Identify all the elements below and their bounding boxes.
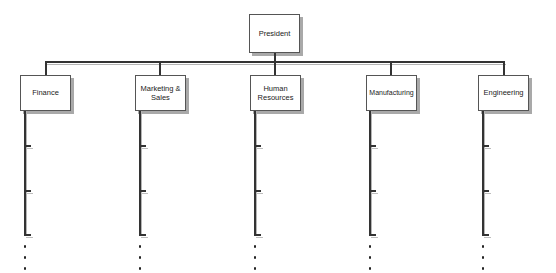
continuation-dot: [254, 245, 257, 248]
department-label: Marketing & Sales: [139, 84, 182, 103]
subordinate-tick: [24, 190, 31, 192]
subordinate-tick: [369, 145, 376, 147]
finance-connector: [45, 61, 47, 75]
org-chart: President Finance Marketing & Sales Huma…: [0, 0, 556, 273]
subordinate-line: [139, 111, 141, 235]
department-box-manufacturing: Manufacturing: [366, 75, 417, 111]
subordinate-line: [254, 111, 256, 235]
continuation-dot: [369, 267, 372, 270]
subordinate-line: [482, 111, 484, 235]
manufacturing-connector: [390, 61, 392, 75]
subordinate-tick-shadow: [256, 193, 263, 194]
department-bus-shadow: [47, 64, 506, 65]
subordinate-tick-shadow: [26, 193, 33, 194]
subordinate-tick: [369, 190, 376, 192]
subordinate-tick: [139, 190, 146, 192]
continuation-dot: [139, 267, 142, 270]
subordinate-tick-shadow: [371, 148, 378, 149]
continuation-dot: [482, 256, 485, 259]
subordinate-line-shadow: [26, 111, 27, 236]
hr-connector: [274, 61, 276, 75]
continuation-dot: [369, 245, 372, 248]
subordinate-tick: [254, 234, 261, 236]
subordinate-line-shadow: [484, 111, 485, 236]
marketing-connector: [159, 61, 161, 75]
engineering-connector: [503, 61, 505, 75]
subordinate-tick-shadow: [371, 237, 378, 238]
subordinate-tick: [482, 145, 489, 147]
subordinate-tick-shadow: [141, 193, 148, 194]
subordinate-tick-shadow: [484, 237, 491, 238]
subordinate-tick: [254, 190, 261, 192]
department-label: Finance: [32, 88, 59, 97]
department-label: Human Resources: [254, 84, 297, 103]
department-label: Engineering: [483, 88, 523, 97]
subordinate-tick-shadow: [26, 237, 33, 238]
subordinate-tick: [24, 234, 31, 236]
subordinate-line: [369, 111, 371, 235]
subordinate-line-shadow: [256, 111, 257, 236]
subordinate-line-shadow: [371, 111, 372, 236]
subordinate-line: [24, 111, 26, 235]
department-box-engineering: Engineering: [478, 75, 529, 111]
subordinate-tick-shadow: [371, 193, 378, 194]
subordinate-tick: [254, 145, 261, 147]
continuation-dot: [482, 267, 485, 270]
subordinate-tick-shadow: [484, 193, 491, 194]
subordinate-tick: [369, 234, 376, 236]
continuation-dot: [24, 245, 27, 248]
subordinate-tick-shadow: [26, 148, 33, 149]
department-box-finance: Finance: [20, 75, 71, 111]
subordinate-tick: [139, 234, 146, 236]
continuation-dot: [24, 256, 27, 259]
subordinate-tick: [482, 190, 489, 192]
department-label: Manufacturing: [369, 89, 413, 98]
subordinate-tick-shadow: [484, 148, 491, 149]
continuation-dot: [139, 245, 142, 248]
subordinate-tick-shadow: [141, 237, 148, 238]
department-box-marketing-sales: Marketing & Sales: [135, 75, 186, 111]
department-box-human-resources: Human Resources: [250, 75, 301, 111]
president-label: President: [259, 29, 291, 38]
subordinate-tick: [139, 145, 146, 147]
subordinate-tick-shadow: [256, 237, 263, 238]
subordinate-tick: [24, 145, 31, 147]
continuation-dot: [482, 245, 485, 248]
continuation-dot: [254, 267, 257, 270]
continuation-dot: [24, 267, 27, 270]
continuation-dot: [369, 256, 372, 259]
continuation-dot: [139, 256, 142, 259]
subordinate-line-shadow: [141, 111, 142, 236]
subordinate-tick-shadow: [256, 148, 263, 149]
continuation-dot: [254, 256, 257, 259]
subordinate-tick: [482, 234, 489, 236]
subordinate-tick-shadow: [141, 148, 148, 149]
president-box: President: [249, 14, 300, 53]
